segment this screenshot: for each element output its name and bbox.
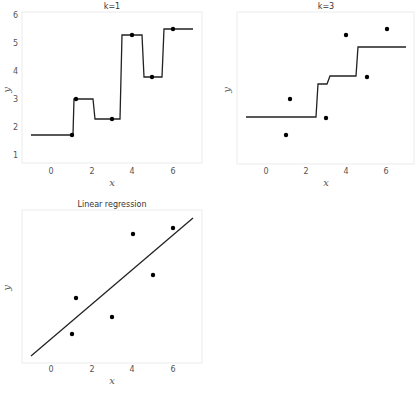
panel-title: k=3	[318, 2, 334, 11]
figure: k=1 0 2 4 6 1 2 3 4 5 6 x y k=3	[0, 0, 419, 398]
svg-text:4: 4	[13, 67, 18, 76]
panel-linear-regression: Linear regression 0 2 4 6 x y	[1, 200, 202, 386]
y-tick-labels: 1 2 3 4 5 6	[13, 11, 18, 160]
svg-text:4: 4	[129, 167, 134, 176]
svg-text:6: 6	[170, 167, 175, 176]
svg-text:6: 6	[170, 365, 175, 374]
x-axis-label: x	[323, 177, 329, 188]
panel-title: k=1	[104, 2, 120, 11]
panel-k1: k=1 0 2 4 6 1 2 3 4 5 6 x y	[1, 2, 202, 188]
svg-text:5: 5	[13, 39, 18, 48]
svg-text:2: 2	[89, 365, 94, 374]
svg-text:0: 0	[48, 365, 53, 374]
svg-text:4: 4	[129, 365, 134, 374]
x-axis-label: x	[109, 375, 115, 386]
svg-text:2: 2	[303, 167, 308, 176]
svg-text:4: 4	[343, 167, 348, 176]
svg-text:2: 2	[13, 123, 18, 132]
svg-text:6: 6	[13, 11, 18, 20]
x-tick-labels: 0 2 4 6	[48, 167, 175, 176]
y-axis-label: y	[1, 87, 12, 94]
plot-area	[237, 12, 414, 164]
x-tick-labels: 0 2 4 6	[263, 167, 388, 176]
svg-text:3: 3	[13, 95, 18, 104]
panel-k3: k=3 0 2 4 6 x y	[221, 2, 414, 188]
plot-area	[22, 12, 202, 163]
svg-text:2: 2	[89, 167, 94, 176]
svg-text:6: 6	[383, 167, 388, 176]
svg-text:0: 0	[263, 167, 268, 176]
x-axis-label: x	[109, 177, 115, 188]
svg-text:0: 0	[48, 167, 53, 176]
y-axis-label: y	[1, 285, 12, 292]
x-tick-labels: 0 2 4 6	[48, 365, 175, 374]
panel-title: Linear regression	[77, 200, 146, 209]
svg-text:1: 1	[13, 151, 18, 160]
y-axis-label: y	[221, 87, 232, 94]
